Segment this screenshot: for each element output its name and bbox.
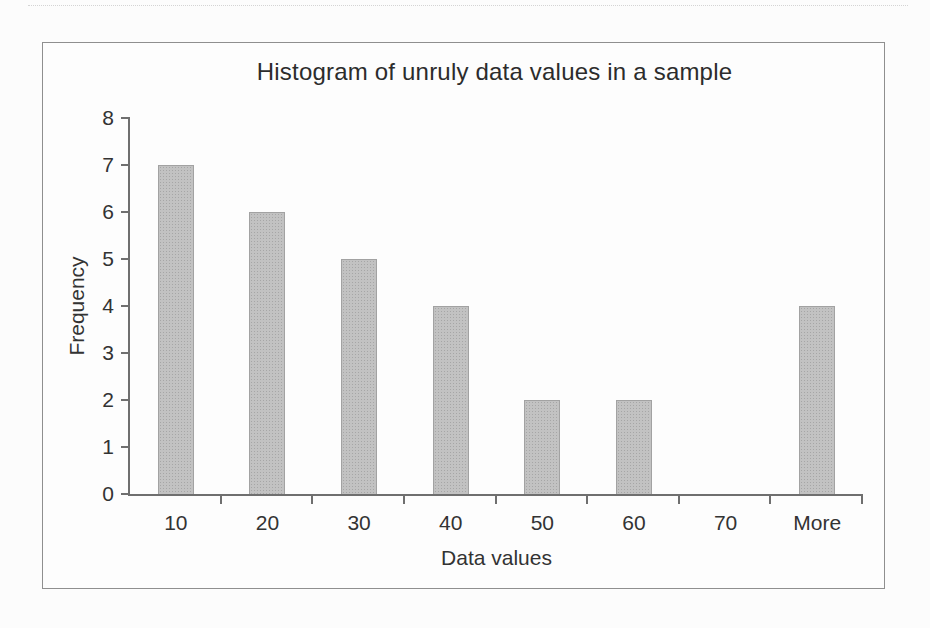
y-axis-tick — [121, 493, 130, 495]
y-axis-tick — [121, 446, 130, 448]
scanned-page: Histogram of unruly data values in a sam… — [0, 0, 930, 628]
y-axis-tick-label: 0 — [76, 482, 114, 506]
y-axis-tick-label: 2 — [76, 388, 114, 412]
x-axis-title: Data values — [130, 546, 863, 570]
x-axis-tick-label: 50 — [497, 510, 589, 535]
x-axis-tick — [495, 496, 497, 504]
x-axis-tick-label: 40 — [405, 510, 497, 535]
plot-area: Frequency Data values 012345678102030405… — [128, 118, 863, 496]
x-axis-tick — [586, 496, 588, 504]
y-axis-tick-label: 6 — [76, 200, 114, 224]
scan-artifact-line — [28, 5, 908, 6]
bar-50 — [524, 400, 560, 494]
y-axis-tick — [121, 117, 130, 119]
chart-frame: Histogram of unruly data values in a sam… — [42, 42, 885, 589]
x-axis-tick-label: 30 — [313, 510, 405, 535]
y-axis-tick — [121, 305, 130, 307]
y-axis-tick-label: 7 — [76, 153, 114, 177]
x-axis-tick-label: 20 — [222, 510, 314, 535]
y-axis-tick-label: 4 — [76, 294, 114, 318]
bar-More — [799, 306, 835, 494]
x-axis-tick-label: 60 — [588, 510, 680, 535]
y-axis-tick — [121, 258, 130, 260]
x-axis-tick — [678, 496, 680, 504]
y-axis-tick-label: 8 — [76, 106, 114, 130]
y-axis-tick — [121, 211, 130, 213]
bar-40 — [433, 306, 469, 494]
bar-60 — [616, 400, 652, 494]
y-axis-tick — [121, 399, 130, 401]
x-axis-tick — [220, 496, 222, 504]
x-axis-tick-label: 10 — [130, 510, 222, 535]
x-axis-tick — [311, 496, 313, 504]
bar-30 — [341, 259, 377, 494]
y-axis-tick — [121, 352, 130, 354]
bar-20 — [249, 212, 285, 494]
x-axis-tick-label: 70 — [680, 510, 772, 535]
y-axis-tick-label: 3 — [76, 341, 114, 365]
chart-title: Histogram of unruly data values in a sam… — [128, 57, 861, 87]
x-axis-tick — [861, 496, 863, 504]
y-axis-tick-label: 1 — [76, 435, 114, 459]
x-axis-tick-label: More — [771, 510, 863, 535]
x-axis-tick — [769, 496, 771, 504]
y-axis-tick — [121, 164, 130, 166]
bar-10 — [158, 165, 194, 494]
x-axis-tick — [403, 496, 405, 504]
y-axis-tick-label: 5 — [76, 247, 114, 271]
